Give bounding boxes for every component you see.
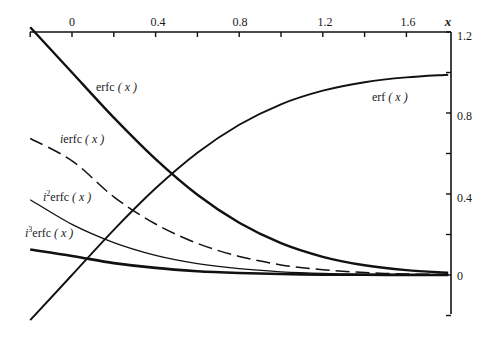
i3erfc-label: i3erfc ( x ) bbox=[25, 225, 73, 240]
erf-curve bbox=[30, 75, 448, 321]
y-tick-label-1.2: 1.2 bbox=[457, 29, 472, 43]
y-tick-label-0: 0 bbox=[457, 269, 463, 283]
x-axis-name: x bbox=[444, 14, 452, 29]
x-tick-label-0.4: 0.4 bbox=[151, 15, 166, 29]
i2erfc-label: i2erfc ( x ) bbox=[43, 189, 91, 204]
x-tick-label-1.2: 1.2 bbox=[318, 15, 333, 29]
x-tick-label-1.6: 1.6 bbox=[401, 15, 416, 29]
ierfc-label: ierfc ( x ) bbox=[60, 132, 104, 146]
ierfc-curve bbox=[30, 139, 448, 275]
y-tick-label-0.8: 0.8 bbox=[457, 109, 472, 123]
x-tick-label-0: 0 bbox=[69, 15, 75, 29]
erfc-curve bbox=[30, 27, 448, 272]
erfc-label: erfc ( x ) bbox=[96, 80, 137, 94]
x-tick-label-0.8: 0.8 bbox=[233, 15, 248, 29]
i2erfc-curve bbox=[30, 200, 448, 275]
y-tick-label-0.4: 0.4 bbox=[457, 191, 472, 205]
erf-label: erf ( x ) bbox=[372, 90, 408, 104]
chart: 0 0.4 0.8 1.2 1.6 x 1.2 0.8 0.4 0 erfc (… bbox=[0, 0, 495, 340]
